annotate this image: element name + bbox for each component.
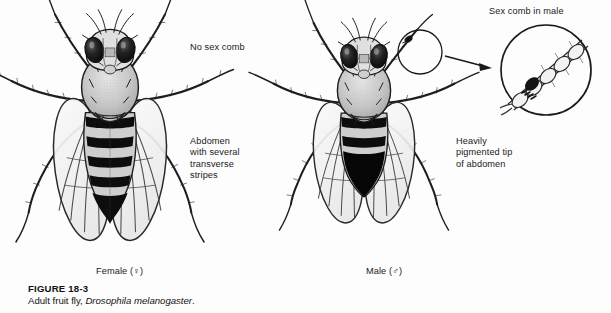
annotation-pigmented-tip: Heavily pigmented tip of abdomen [456,136,512,170]
female-specimen-caption: Female (♀) [96,266,143,277]
species-name: Drosophila melanogaster [85,295,192,306]
figure-caption: FIGURE 18-3 Adult fruit fly, Drosophila … [28,283,195,307]
sex-comb-inset [500,25,591,115]
caption-prefix: Adult fruit fly, [28,295,85,306]
male-specimen-caption: Male (♂) [366,266,402,277]
annotation-abdomen-stripes: Abdomen with several transverse stripes [190,136,240,182]
figure-number: FIGURE 18-3 [28,283,88,294]
sex-comb-inset-label: Sex comb in male [489,6,564,17]
caption-suffix: . [192,295,195,306]
fruit-fly-figure [0,0,611,313]
annotation-no-sex-comb: No sex comb [190,42,245,53]
